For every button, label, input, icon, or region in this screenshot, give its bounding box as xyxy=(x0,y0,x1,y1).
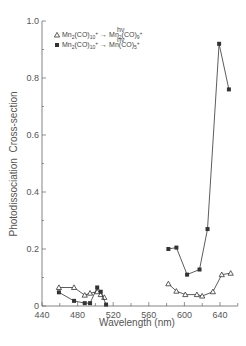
x-tick-label: 480 xyxy=(70,310,85,320)
y-tick-label: 0.2 xyxy=(26,244,39,254)
x-tick-label: 640 xyxy=(212,310,227,320)
series-group xyxy=(56,42,233,307)
legend-item-1: Mn2(CO)10+ → Mn2(CO)9+hν xyxy=(54,26,142,40)
x-tick-label: 440 xyxy=(34,310,49,320)
square-marker xyxy=(104,303,108,307)
hv-label: hν xyxy=(117,36,125,43)
square-marker xyxy=(95,285,99,289)
x-axis-title: Wavelength (nm) xyxy=(99,317,175,328)
legend-label: Mn2(CO)10+ → Mn(CO)5+ xyxy=(62,40,140,50)
square-marker xyxy=(99,290,103,294)
legend-label: Mn2(CO)10+ → Mn2(CO)9+ xyxy=(62,30,143,40)
square-marker xyxy=(55,43,59,47)
hv-label: hν xyxy=(117,26,125,33)
square-marker xyxy=(185,273,189,277)
chart: 44048052056060064000.20.40.60.81.0 Mn2(C… xyxy=(0,0,246,346)
square-marker xyxy=(88,301,92,305)
square-marker xyxy=(227,87,231,91)
square-marker xyxy=(72,299,76,303)
square-marker xyxy=(57,290,61,294)
y-tick-label: 0 xyxy=(34,301,39,311)
square-marker xyxy=(198,268,202,272)
square-marker xyxy=(206,227,210,231)
square-marker xyxy=(83,301,87,305)
series-2 xyxy=(57,42,231,307)
triangle-marker xyxy=(228,271,233,276)
x-tick-label: 600 xyxy=(177,310,192,320)
y-tick-label: 0.8 xyxy=(26,73,39,83)
triangle-marker xyxy=(210,289,215,294)
triangle-marker xyxy=(166,281,171,286)
square-marker xyxy=(217,42,221,46)
triangle-marker xyxy=(54,32,59,37)
axes: 44048052056060064000.20.40.60.81.0 xyxy=(26,16,237,320)
series-line xyxy=(168,44,229,275)
y-tick-label: 0.6 xyxy=(26,130,39,140)
legend-item-2: Mn2(CO)10+ → Mn(CO)5+hν xyxy=(55,36,140,50)
square-marker xyxy=(166,247,170,251)
series-1 xyxy=(56,271,233,300)
y-tick-label: 0.4 xyxy=(26,187,39,197)
legend: Mn2(CO)10+ → Mn2(CO)9+hνMn2(CO)10+ → Mn(… xyxy=(54,26,142,50)
y-tick-label: 1.0 xyxy=(26,16,39,26)
square-marker xyxy=(174,246,178,250)
y-axis-title: Photodissociation Cross-section xyxy=(8,91,19,236)
